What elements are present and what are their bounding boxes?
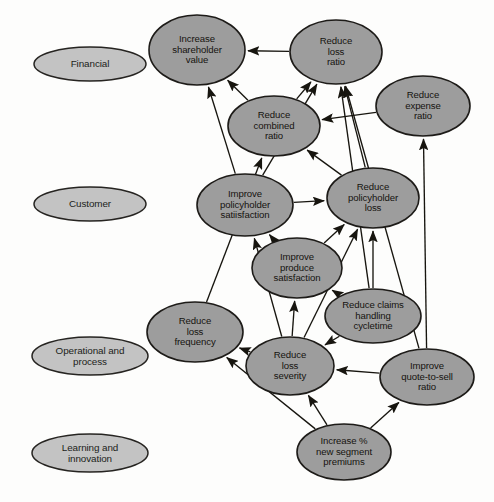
diagram-canvas	[0, 0, 494, 502]
edge-combined_ratio-to-loss_ratio	[297, 82, 311, 99]
edge-quote_to_sell-to-loss_severity	[337, 370, 380, 373]
edge-produce_satis-to-policyholder_satis	[269, 235, 274, 241]
perspective-ellipse-operational[interactable]	[32, 337, 148, 375]
edge-new_segment-to-loss_severity	[308, 395, 327, 425]
edge-combined_ratio-to-shareholder_value	[228, 80, 248, 100]
objective-ellipse-loss_ratio[interactable]	[290, 20, 382, 84]
edge-expense_ratio-to-combined_ratio	[322, 112, 376, 119]
strategy-map-diagram: FinancialCustomerOperational and process…	[0, 0, 494, 502]
objective-ellipse-claims_cycletime[interactable]	[325, 289, 421, 343]
edge-loss_severity-to-produce_satis	[292, 301, 295, 336]
objective-ellipse-shareholder_value[interactable]	[149, 15, 245, 85]
perspective-ellipse-financial[interactable]	[34, 47, 146, 81]
edge-quote_to_sell-to-expense_ratio	[423, 139, 426, 348]
objective-ellipse-loss_frequency[interactable]	[147, 302, 243, 362]
objective-ellipse-policyholder_satis[interactable]	[197, 174, 293, 236]
perspective-ellipse-learning[interactable]	[32, 434, 148, 472]
edge-produce_satis-to-policyholder_loss	[324, 225, 344, 244]
objective-ellipse-quote_to_sell[interactable]	[380, 349, 474, 405]
objective-ellipse-policyholder_loss[interactable]	[327, 168, 419, 228]
objective-ellipse-produce_satis[interactable]	[252, 238, 342, 298]
objective-ellipse-combined_ratio[interactable]	[228, 96, 320, 156]
node-layer	[32, 15, 474, 480]
objective-ellipse-expense_ratio[interactable]	[376, 76, 470, 136]
edge-claims_cycletime-to-loss_severity	[325, 336, 339, 345]
edge-loss_severity-to-loss_frequency	[239, 348, 250, 352]
objective-ellipse-new_segment[interactable]	[297, 424, 391, 480]
edge-policyholder_satis-to-policyholder_loss	[294, 201, 324, 203]
objective-ellipse-loss_severity[interactable]	[246, 337, 334, 395]
edge-new_segment-to-quote_to_sell	[371, 402, 399, 428]
edge-loss_ratio-to-shareholder_value	[248, 51, 289, 52]
perspective-ellipse-customer[interactable]	[34, 187, 146, 221]
edge-claims_cycletime-to-produce_satis	[332, 290, 340, 295]
edge-policyholder_loss-to-loss_ratio	[345, 86, 366, 167]
edge-policyholder_loss-to-combined_ratio	[307, 150, 341, 175]
